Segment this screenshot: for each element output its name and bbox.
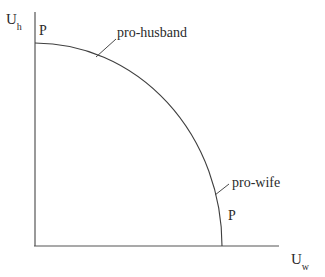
utility-frontier-curve bbox=[35, 43, 222, 246]
x-axis-label: Uw bbox=[291, 252, 309, 270]
x-axis-label-subscript: w bbox=[302, 261, 309, 272]
annotation-pro-wife: pro-wife bbox=[232, 176, 280, 190]
x-axis-label-base: U bbox=[291, 251, 302, 267]
upf-diagram: Uh Uw P P pro-husband pro-wife bbox=[0, 0, 325, 277]
y-axis-label: Uh bbox=[6, 12, 22, 30]
pro-husband-leader-line bbox=[96, 39, 116, 57]
y-axis-label-subscript: h bbox=[17, 21, 22, 32]
pro-wife-leader-line bbox=[215, 184, 229, 195]
y-axis-label-base: U bbox=[6, 11, 17, 27]
point-label-top-left: P bbox=[39, 24, 47, 38]
plot-area bbox=[0, 0, 325, 277]
point-label-bottom-right: P bbox=[228, 209, 236, 223]
annotation-pro-husband: pro-husband bbox=[117, 26, 187, 40]
